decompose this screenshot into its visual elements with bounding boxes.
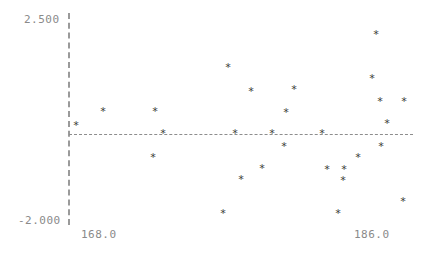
data-point-marker: * — [377, 97, 384, 106]
data-point-marker: * — [100, 107, 107, 116]
data-point-marker: * — [340, 176, 347, 185]
data-point-marker: * — [401, 97, 408, 106]
data-point-marker: * — [259, 164, 266, 173]
data-point-marker: * — [400, 197, 407, 206]
data-point-marker: * — [281, 142, 288, 151]
y-axis-min-label: -2.000 — [18, 215, 61, 227]
data-point-marker: * — [319, 129, 326, 138]
data-point-marker: * — [152, 107, 159, 116]
data-point-marker: * — [355, 153, 362, 162]
data-point-marker: * — [291, 85, 298, 94]
data-point-marker: * — [232, 129, 239, 138]
data-point-marker: * — [378, 142, 385, 151]
x-axis-min-label: 168.0 — [81, 229, 117, 241]
data-point-marker: * — [73, 121, 80, 130]
residual-scatter-plot: 2.500 -2.000 168.0 186.0 ***************… — [0, 0, 429, 258]
data-point-marker: * — [238, 175, 245, 184]
data-point-marker: * — [160, 129, 167, 138]
data-point-marker: * — [335, 209, 342, 218]
data-point-marker: * — [269, 129, 276, 138]
x-axis-max-label: 186.0 — [354, 229, 390, 241]
data-point-marker: * — [150, 153, 157, 162]
data-point-marker: * — [341, 165, 348, 174]
data-point-marker: * — [248, 87, 255, 96]
y-axis-max-label: 2.500 — [24, 14, 60, 26]
data-point-marker: * — [324, 165, 331, 174]
data-point-marker: * — [369, 74, 376, 83]
data-point-marker: * — [384, 119, 391, 128]
data-point-marker: * — [225, 63, 232, 72]
data-point-marker: * — [220, 209, 227, 218]
data-point-marker: * — [373, 30, 380, 39]
y-axis-dashed-line — [68, 13, 70, 225]
data-point-marker: * — [283, 108, 290, 117]
zero-reference-dashed-line — [69, 134, 413, 135]
